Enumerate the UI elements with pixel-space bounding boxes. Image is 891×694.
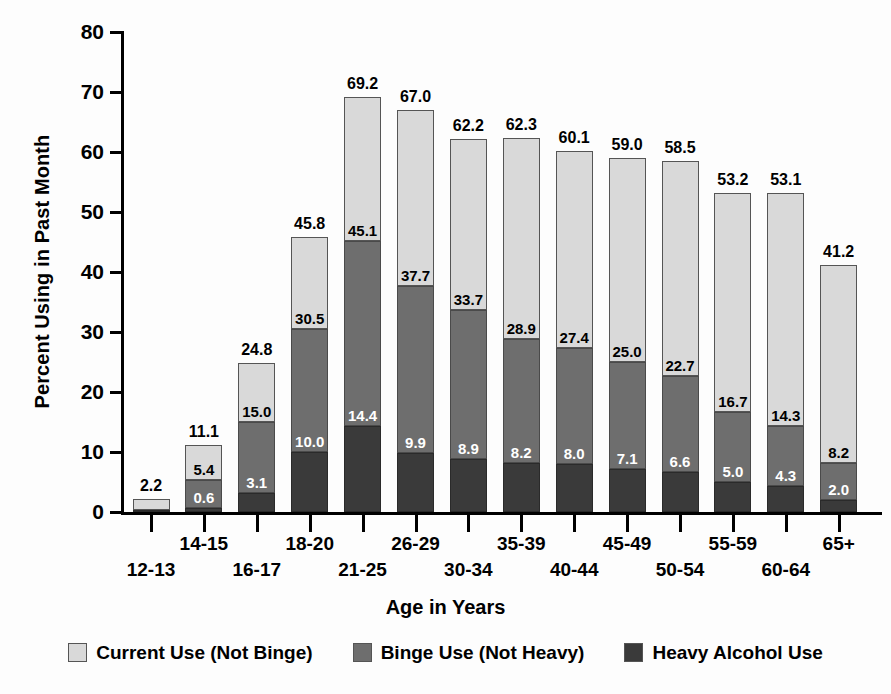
segment-value-binge-cumulative: 27.4 — [560, 330, 589, 347]
bar-segment-binge-use: 3.1 — [238, 422, 275, 493]
bar-26-29: 37.79.9 — [397, 110, 434, 512]
bar-segment-binge-use: 8.0 — [556, 348, 593, 464]
bar-total-label: 2.2 — [111, 478, 191, 494]
bar-segment-heavy-alcohol — [450, 459, 487, 512]
x-axis-tick-label: 12-13 — [106, 560, 196, 579]
bar-total-label: 24.8 — [217, 342, 297, 358]
bar-total-label: 41.2 — [799, 244, 879, 260]
bar-segment-current-use: 45.1 — [344, 97, 381, 242]
bar-segment-current-use: 8.2 — [820, 265, 857, 463]
y-axis-tick-label: 60 — [52, 141, 104, 162]
y-axis-tick — [110, 271, 121, 274]
y-axis-tick-label: 10 — [52, 441, 104, 462]
bar-segment-current-use: 22.7 — [662, 161, 699, 376]
bar-45-49: 25.07.1 — [609, 158, 646, 512]
bar-segment-current-use: 25.0 — [609, 158, 646, 362]
x-axis-tick — [256, 515, 259, 532]
bar-50-54: 22.76.6 — [662, 161, 699, 512]
bar-14-15: 5.40.6 — [185, 445, 222, 512]
legend-label: Heavy Alcohol Use — [652, 643, 822, 662]
y-axis-tick-label: 40 — [52, 261, 104, 282]
bar-segment-current-use: 5.4 — [185, 445, 222, 479]
x-axis-tick-label: 45-49 — [582, 534, 672, 553]
bar-segment-heavy-alcohol — [503, 463, 540, 512]
x-axis-tick — [415, 515, 418, 532]
bar-total-label: 11.1 — [164, 424, 244, 440]
bar-total-label: 58.5 — [640, 140, 720, 156]
segment-value-heavy: 5.0 — [722, 464, 743, 481]
x-axis-tick — [785, 515, 788, 532]
bar-segment-heavy-alcohol — [662, 472, 699, 512]
y-axis-tick-label: 0 — [52, 501, 104, 522]
x-axis-tick-label: 21-25 — [318, 560, 408, 579]
bar-segment-binge-use: 9.9 — [397, 286, 434, 453]
segment-value-binge-cumulative: 30.5 — [295, 311, 324, 328]
bar-segment-binge-use: 10.0 — [291, 329, 328, 452]
segment-value-binge-cumulative: 8.2 — [828, 445, 849, 462]
segment-value-heavy: 4.3 — [775, 468, 796, 485]
legend-item: Heavy Alcohol Use — [624, 643, 822, 662]
x-axis-tick-label: 16-17 — [212, 560, 302, 579]
chart-legend: Current Use (Not Binge)Binge Use (Not He… — [0, 643, 891, 662]
segment-value-heavy: 14.4 — [348, 408, 377, 425]
segment-value-binge-cumulative: 45.1 — [348, 223, 377, 240]
y-axis-tick — [110, 151, 121, 154]
x-axis-tick-label: 14-15 — [159, 534, 249, 553]
bar-35-39: 28.98.2 — [503, 138, 540, 512]
bar-12-13 — [133, 499, 170, 512]
segment-value-binge-cumulative: 14.3 — [771, 408, 800, 425]
x-axis-tick — [573, 515, 576, 532]
bar-segment-binge-use: 8.9 — [450, 310, 487, 459]
segment-value-binge-cumulative: 15.0 — [242, 404, 271, 421]
segment-value-heavy: 8.0 — [564, 446, 585, 463]
legend-label: Current Use (Not Binge) — [96, 643, 312, 662]
y-axis-tick — [110, 31, 121, 34]
x-axis-tick — [150, 515, 153, 532]
bar-60-64: 14.34.3 — [767, 193, 804, 512]
x-axis-tick — [626, 515, 629, 532]
bar-segment-heavy-alcohol — [344, 426, 381, 512]
bar-segment-current-use: 30.5 — [291, 237, 328, 329]
bar-21-25: 45.114.4 — [344, 97, 381, 512]
bar-total-label: 53.1 — [746, 172, 826, 188]
y-axis-title: Percent Using in Past Month — [31, 62, 54, 482]
bar-segment-heavy-alcohol — [767, 486, 804, 512]
stacked-bar-chart: Percent Using in Past Month 010203040506… — [0, 0, 891, 694]
segment-value-heavy: 0.6 — [193, 490, 214, 507]
bar-segment-binge-use: 8.2 — [503, 339, 540, 463]
bar-segment-current-use: 28.9 — [503, 138, 540, 338]
x-axis-tick — [362, 515, 365, 532]
x-axis-line — [121, 512, 882, 515]
bar-segment-heavy-alcohol — [238, 493, 275, 512]
y-axis-tick-label: 50 — [52, 201, 104, 222]
legend-label: Binge Use (Not Heavy) — [381, 643, 585, 662]
segment-value-heavy: 8.2 — [511, 445, 532, 462]
bar-30-34: 33.78.9 — [450, 139, 487, 512]
bar-40-44: 27.48.0 — [556, 151, 593, 512]
bar-total-label: 45.8 — [270, 216, 350, 232]
bar-segment-binge-use: 7.1 — [609, 362, 646, 469]
bar-segment-current-use — [133, 499, 170, 510]
segment-value-heavy: 2.0 — [828, 482, 849, 499]
legend-swatch-icon — [353, 643, 372, 662]
bar-segment-heavy-alcohol — [609, 469, 646, 512]
bar-segment-heavy-alcohol — [397, 453, 434, 512]
bar-segment-heavy-alcohol — [556, 464, 593, 512]
segment-value-binge-cumulative: 28.9 — [507, 321, 536, 338]
bar-65+: 8.22.0 — [820, 265, 857, 512]
x-axis-tick-label: 18-20 — [265, 534, 355, 553]
x-axis-tick-label: 40-44 — [529, 560, 619, 579]
x-axis-title: Age in Years — [0, 596, 891, 619]
x-axis-tick-label: 35-39 — [476, 534, 566, 553]
y-axis-tick — [110, 91, 121, 94]
x-axis-tick — [309, 515, 312, 532]
segment-value-heavy: 3.1 — [246, 475, 267, 492]
segment-value-heavy: 7.1 — [617, 451, 638, 468]
segment-value-binge-cumulative: 33.7 — [454, 292, 483, 309]
x-axis-tick — [732, 515, 735, 532]
y-axis-tick — [110, 511, 121, 514]
x-axis-tick — [520, 515, 523, 532]
y-axis-tick — [110, 331, 121, 334]
y-axis-tick-label: 20 — [52, 381, 104, 402]
y-axis-tick-label: 70 — [52, 81, 104, 102]
